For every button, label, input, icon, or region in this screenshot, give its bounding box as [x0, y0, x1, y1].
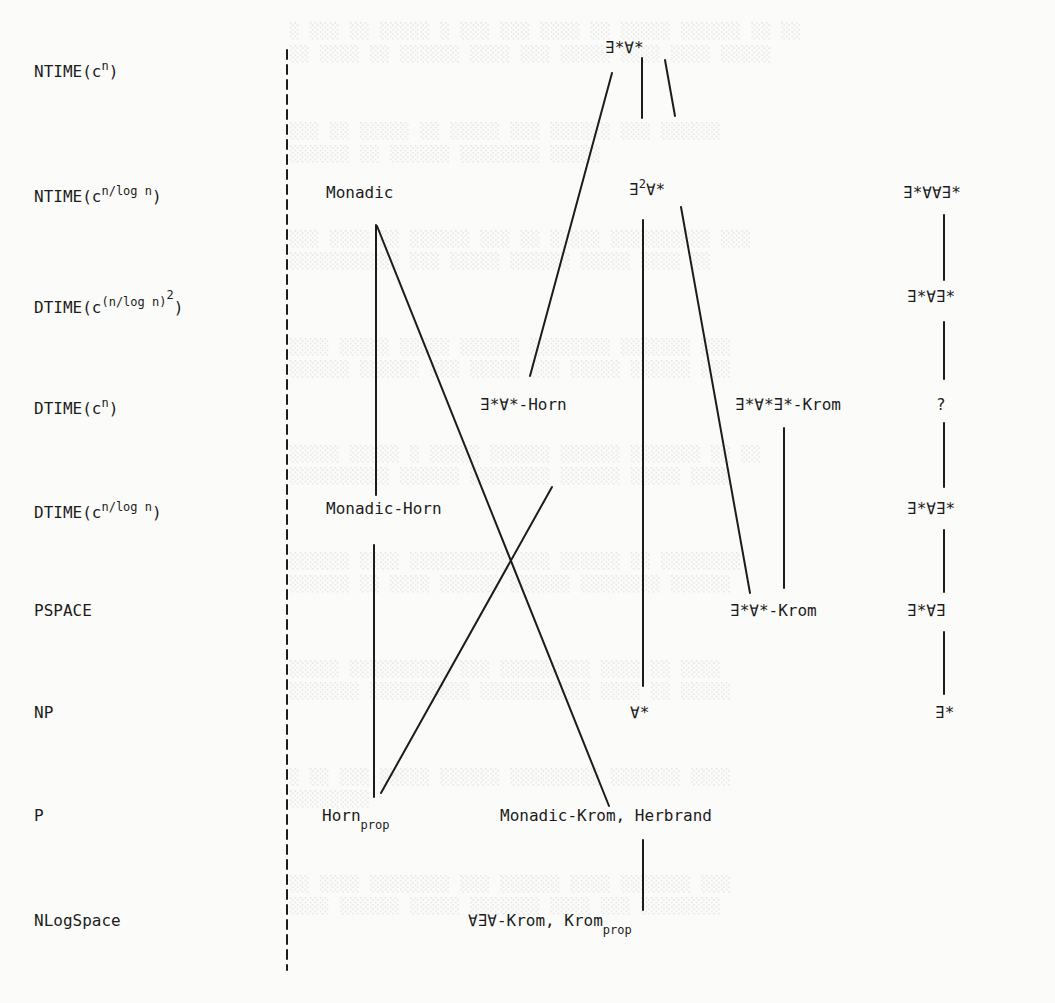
node-forall-star: ∀* [630, 705, 649, 721]
node-exists-star: ∃* [935, 705, 954, 721]
class-label-nlogspace: NLogSpace [34, 913, 121, 929]
class-label-dtime-cn: DTIME(cn) [34, 397, 118, 417]
node-exists-star-forall-star: ∃*∀* [605, 40, 644, 56]
class-label-dtime-cn-logn-squared: DTIME(c(n/log n)2) [34, 289, 183, 316]
node-aea-krom-krom-prop: ∀∃∀-Krom, Kromprop [468, 913, 632, 936]
node-monadic-horn: Monadic-Horn [326, 501, 442, 517]
class-label-dtime-cn-logn: DTIME(cn/log n) [34, 501, 162, 521]
class-label-p: P [34, 808, 44, 824]
edge-eastar-right [665, 60, 675, 116]
class-label-ntime-cn: NTIME(cn) [34, 60, 118, 80]
class-label-ntime-cn-logn: NTIME(cn/log n) [34, 185, 162, 205]
class-label-np: NP [34, 705, 53, 721]
edge-eastar-eahorn [530, 73, 612, 376]
node-ea-krom: ∃*∀*-Krom [730, 603, 817, 619]
node-exists2-forall-star: ∃2∀* [629, 178, 665, 198]
node-ea-horn: ∃*∀*-Horn [480, 397, 567, 413]
node-eae-krom: ∃*∀*∃*-Krom [735, 397, 841, 413]
node-exists-star-forall-forall-exists-star: ∃*∀∀∃* [903, 185, 961, 201]
class-label-pspace: PSPACE [34, 603, 92, 619]
node-horn-prop: Hornprop [322, 808, 389, 831]
edge-eahorn-hornprop [381, 487, 552, 793]
node-question-open-problem: ? [936, 397, 946, 413]
node-exists-star-forall-exists: ∃*∀∃ [907, 603, 946, 619]
node-monadic: Monadic [326, 185, 393, 201]
node-exists-star-forall-exists-star-1: ∃*∀∃* [907, 289, 955, 305]
node-exists-star-forall-exists-star-2: ∃*∀∃* [907, 501, 955, 517]
node-monadic-krom-herbrand: Monadic-Krom, Herbrand [500, 808, 712, 824]
